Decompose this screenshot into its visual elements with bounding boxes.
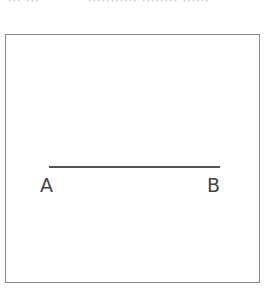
point-label-a: A bbox=[40, 176, 53, 195]
cropped-text-right: ··········· ········ ······ bbox=[88, 0, 209, 6]
cropped-header-text: ··· ··· ··········· ········ ······ bbox=[0, 0, 271, 6]
cropped-text-left: ··· ··· bbox=[8, 0, 39, 6]
point-label-b: B bbox=[207, 176, 220, 195]
diagram-frame bbox=[5, 34, 260, 283]
line-segment-ab bbox=[49, 166, 220, 168]
